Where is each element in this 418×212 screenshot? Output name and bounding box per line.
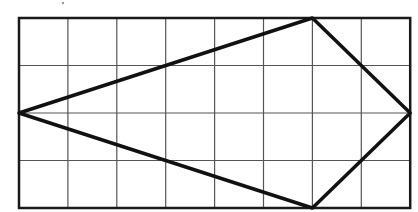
grid (19, 18, 410, 208)
stray-mark (62, 2, 64, 4)
kite-on-grid-diagram (0, 0, 418, 212)
